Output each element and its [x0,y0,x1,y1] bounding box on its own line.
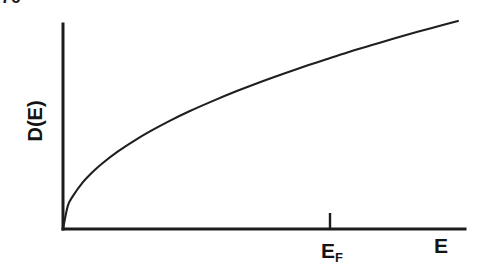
plot-area [0,0,489,265]
y-axis-label: D(E) [24,100,47,141]
x-axis-label: E [434,234,448,258]
fermi-energy-label-subscript: F [335,250,343,265]
figure-container: 76 D(E) EF E [0,0,489,265]
density-of-states-curve [63,21,458,229]
fermi-energy-label-main: E [321,239,335,262]
fermi-energy-label: EF [321,239,343,263]
